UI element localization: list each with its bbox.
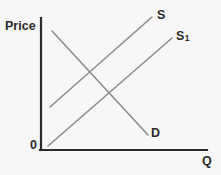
- demand-curve-d: [52, 31, 148, 135]
- supply-demand-diagram: Price Q 0 S S1 D: [0, 0, 221, 175]
- origin-label: 0: [30, 139, 37, 152]
- x-axis-label: Q: [202, 155, 212, 168]
- supply-curve-s: [50, 17, 152, 107]
- supply-curve-s1-label: S1: [176, 30, 190, 43]
- supply-curve-s1-label-subscript: 1: [184, 33, 189, 43]
- supply-curve-s-label: S: [157, 9, 165, 22]
- demand-curve-d-label: D: [151, 127, 160, 140]
- y-axis-label: Price: [5, 20, 36, 33]
